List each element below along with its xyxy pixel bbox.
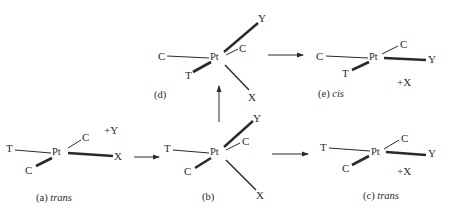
atom-c-T: T — [320, 142, 327, 153]
atom-e-C-left: C — [316, 51, 323, 62]
bond-d-C-left — [167, 56, 209, 58]
atom-a-Pt: Pt — [52, 147, 61, 158]
bond-a-X-wedge — [68, 153, 113, 156]
atom-c-Y: Y — [428, 148, 436, 159]
atom-a-C-upper: C — [82, 132, 89, 143]
bond-e-T-wedge — [352, 62, 369, 70]
atom-b-Pt: Pt — [210, 147, 219, 158]
atom-c-C-lower: C — [342, 163, 349, 174]
atom-b-X: X — [256, 190, 264, 201]
bond-d-T-wedge — [193, 62, 211, 72]
atom-b-Y: Y — [253, 113, 261, 124]
bond-a-C-upper — [68, 140, 81, 148]
caption-e: (e) cis — [318, 89, 344, 100]
bond-b-X — [226, 160, 256, 190]
caption-d: (d) — [154, 90, 166, 101]
mechanism-diagram — [0, 0, 460, 215]
atom-d-C-small: C — [239, 43, 246, 54]
atom-a-C-lower: C — [25, 165, 32, 176]
bond-b-T — [173, 150, 209, 153]
bond-c-C-upper — [384, 140, 399, 149]
bond-d-X — [225, 65, 249, 90]
caption-c-isomer: trans — [377, 190, 399, 201]
atom-e-Y: Y — [428, 54, 436, 65]
leaving-c-X: +X — [397, 166, 411, 177]
atom-a-T: T — [6, 143, 13, 154]
atom-b-C-small: C — [242, 136, 249, 147]
atom-e-C-upper: C — [400, 39, 407, 50]
bond-c-Y-wedge — [386, 152, 426, 155]
atom-e-T: T — [342, 68, 349, 79]
caption-e-isomer: cis — [332, 88, 344, 99]
bond-a-T — [15, 150, 51, 153]
atom-e-Pt: Pt — [369, 52, 378, 63]
atom-d-Pt: Pt — [210, 52, 219, 63]
bond-e-Y-wedge — [384, 58, 426, 60]
incoming-a-Y: +Y — [104, 125, 118, 136]
atom-d-T: T — [185, 70, 192, 81]
bond-c-C-lower-wedge — [352, 156, 369, 165]
atom-c-Pt: Pt — [371, 147, 380, 158]
atom-a-X: X — [114, 151, 122, 162]
caption-a-prefix: (a) — [36, 192, 48, 203]
structure-a — [15, 140, 113, 166]
caption-c: (c) trans — [363, 191, 399, 202]
bond-c-T — [329, 148, 370, 151]
atom-b-T: T — [164, 143, 171, 154]
bond-e-C-upper — [382, 46, 398, 54]
caption-a-isomer: trans — [50, 192, 72, 203]
caption-b: (b) — [202, 192, 214, 203]
leaving-e-X: +X — [397, 77, 411, 88]
atom-b-C-lower: C — [184, 166, 191, 177]
atom-c-C-upper: C — [401, 133, 408, 144]
bond-b-C-lower-wedge — [195, 158, 211, 168]
caption-e-prefix: (e) — [318, 88, 330, 99]
bond-e-C-left — [326, 56, 368, 58]
atom-d-Y: Y — [258, 13, 266, 24]
atom-d-X: X — [248, 92, 256, 103]
bond-a-C-lower-wedge — [36, 158, 52, 166]
caption-c-prefix: (c) — [363, 190, 375, 201]
atom-d-C-left: C — [158, 51, 165, 62]
caption-a: (a) trans — [36, 193, 72, 204]
